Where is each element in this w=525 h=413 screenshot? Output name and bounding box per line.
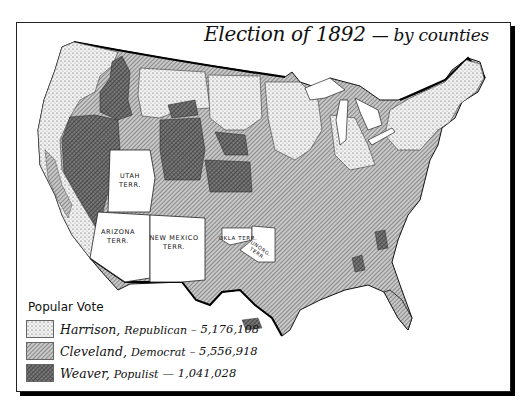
crosshatch-swatch-icon [26, 364, 54, 382]
region-rep-dakotas [208, 75, 262, 130]
region-pop-colorado [160, 118, 205, 180]
title-subtitle: — by counties [372, 25, 489, 45]
legend-candidate: Cleveland, [60, 344, 127, 359]
legend-votes: – 5,176,108 [191, 322, 259, 336]
legend: Popular Vote Harrison, Republican – 5,17… [26, 300, 226, 384]
legend-heading: Popular Vote [28, 300, 226, 314]
legend-votes: – 5,556,918 [190, 344, 258, 358]
region-pop-kansas [205, 160, 252, 192]
legend-item-democrat: Cleveland, Democrat – 5,556,918 [26, 340, 226, 362]
map-title: Election of 1892 — by counties [204, 22, 489, 46]
legend-item-populist: Weaver, Populist — 1,041,028 [26, 362, 226, 384]
legend-party: Democrat [131, 346, 186, 359]
arizona-territory [90, 212, 150, 282]
legend-candidate: Harrison, [60, 322, 120, 337]
legend-party: Republican [124, 324, 187, 337]
hatch-swatch-icon [26, 342, 54, 360]
legend-votes: — 1,041,028 [163, 366, 237, 380]
legend-party: Populist [114, 368, 159, 381]
stipple-swatch-icon [26, 320, 54, 338]
utah-label: UTAHTERR. [118, 172, 141, 189]
title-main: Election of 1892 [204, 22, 366, 46]
legend-item-republican: Harrison, Republican – 5,176,108 [26, 318, 226, 340]
legend-candidate: Weaver, [60, 366, 110, 381]
